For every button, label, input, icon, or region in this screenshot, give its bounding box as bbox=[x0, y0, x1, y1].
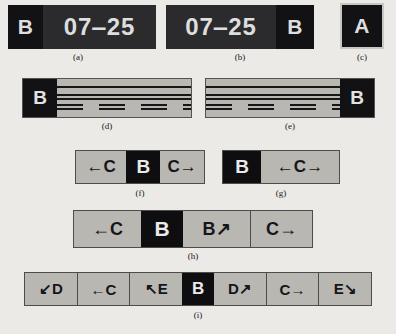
panel-d-end-label: B bbox=[23, 79, 57, 117]
panel-b-segment-number: 07‒25 bbox=[166, 5, 276, 49]
panel-c-label: A bbox=[342, 5, 382, 47]
panel-h-cell-2: B bbox=[141, 211, 183, 247]
panel-c: A bbox=[340, 3, 384, 49]
panel-i-cell-1: ↙D bbox=[25, 273, 77, 305]
panel-i: ↙D ←C ↖E B D↗ C→ E↘ bbox=[24, 272, 372, 306]
caption-i: (i) bbox=[24, 310, 372, 320]
lane-line-double-center-2 bbox=[206, 98, 340, 100]
panel-i-cell-7: E↘ bbox=[318, 273, 371, 305]
caption-f: (f) bbox=[75, 188, 205, 198]
panel-i-cell-5: D↗ bbox=[214, 273, 266, 305]
panel-g-cell-2: ←C→ bbox=[261, 151, 339, 183]
lane-line-dashed-1 bbox=[57, 104, 191, 106]
panel-a: B 07‒25 bbox=[8, 5, 156, 49]
panel-g: B ←C→ bbox=[222, 150, 340, 184]
panel-f-cell-2: B bbox=[126, 151, 160, 183]
lane-line-dashed-1 bbox=[206, 104, 340, 106]
panel-h-cell-3: B↗ bbox=[183, 211, 250, 247]
caption-h: (h) bbox=[73, 251, 313, 261]
panel-h-cell-1: ←C bbox=[74, 211, 141, 247]
panel-g-cell-1: B bbox=[223, 151, 261, 183]
panel-h-cell-4: C→ bbox=[250, 211, 312, 247]
panel-e-end-label: B bbox=[340, 79, 374, 117]
caption-b: (b) bbox=[166, 52, 314, 62]
panel-i-cell-2: ←C bbox=[77, 273, 130, 305]
caption-g: (g) bbox=[222, 188, 340, 198]
panel-i-cell-3: ↖E bbox=[129, 273, 182, 305]
caption-d: (d) bbox=[22, 121, 192, 131]
lane-line-solid-edge bbox=[57, 86, 191, 88]
lane-line-dashed-2 bbox=[57, 108, 191, 110]
caption-a: (a) bbox=[0, 52, 156, 62]
lane-line-double-center-2 bbox=[57, 98, 191, 100]
panel-f-cell-3: C→ bbox=[160, 151, 204, 183]
panel-h: ←C B B↗ C→ bbox=[73, 210, 313, 248]
caption-e: (e) bbox=[205, 121, 375, 131]
panel-f-cell-1: ←C bbox=[76, 151, 126, 183]
panel-a-segment-number: 07‒25 bbox=[43, 5, 156, 49]
panel-a-segment-route: B bbox=[8, 5, 43, 49]
lane-line-double-center-1 bbox=[57, 94, 191, 96]
panel-d: B bbox=[22, 78, 192, 118]
panel-b: 07‒25 B bbox=[166, 5, 314, 49]
panel-i-cell-6: C→ bbox=[266, 273, 319, 305]
lane-line-dashed-2 bbox=[206, 108, 340, 110]
panel-e-lane-markings bbox=[206, 79, 340, 117]
panel-i-cell-4: B bbox=[182, 273, 214, 305]
panel-b-segment-route: B bbox=[276, 5, 314, 49]
panel-e: B bbox=[205, 78, 375, 118]
caption-c: (c) bbox=[336, 52, 388, 62]
lane-line-solid-edge bbox=[206, 86, 340, 88]
lane-line-double-center-1 bbox=[206, 94, 340, 96]
panel-f: ←C B C→ bbox=[75, 150, 205, 184]
panel-d-lane-markings bbox=[57, 79, 191, 117]
